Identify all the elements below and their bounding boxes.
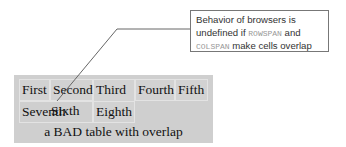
callout-leader-line [0, 0, 346, 147]
